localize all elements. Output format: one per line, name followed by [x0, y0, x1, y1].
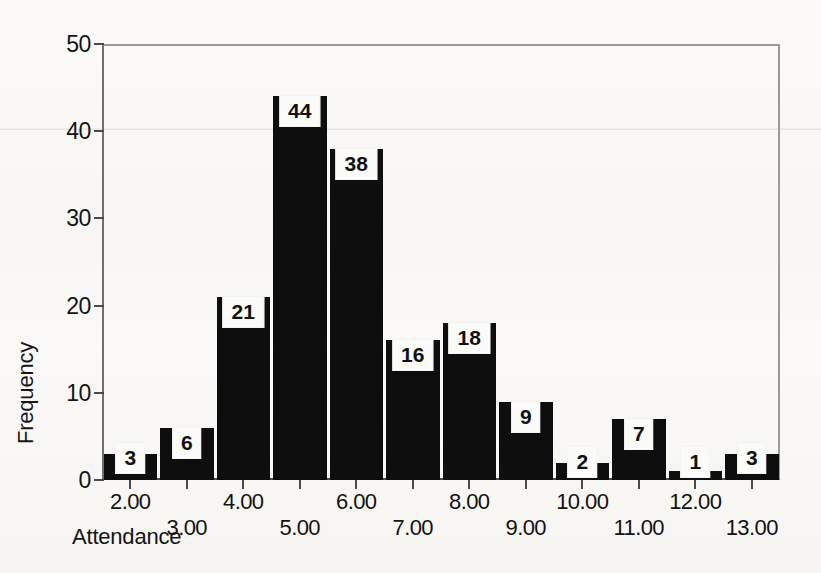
bar-value-label: 9	[511, 401, 541, 433]
x-axis-tick-mark	[299, 480, 301, 489]
x-axis-tick-label: 12.00	[669, 489, 721, 515]
bar-group[interactable]: 44	[273, 96, 327, 480]
bar-group[interactable]: 21	[217, 297, 271, 480]
y-axis-tick-label: 30	[0, 205, 102, 232]
x-axis-tick-mark	[412, 480, 414, 489]
x-axis-tick-label: 5.00	[280, 515, 320, 541]
x-axis-tick-mark	[186, 480, 188, 489]
bar-group[interactable]: 16	[386, 340, 440, 480]
histogram-chart: 01020304050 Frequency 36214438161892713 …	[0, 0, 821, 573]
bar-value-label: 38	[336, 148, 377, 180]
bar-group[interactable]: 3	[725, 454, 779, 480]
bar-rect	[330, 149, 384, 480]
x-axis-tick-mark	[751, 480, 753, 489]
x-axis-tick-mark	[468, 480, 470, 489]
bar-group[interactable]: 6	[160, 428, 214, 480]
x-axis-tick-label: 6.00	[336, 489, 376, 515]
bar-group[interactable]: 9	[499, 402, 553, 480]
x-axis-tick-mark	[242, 480, 244, 489]
bar-value-label: 3	[737, 442, 767, 474]
x-axis-tick-label: 11.00	[614, 515, 664, 541]
x-axis-tick-mark	[581, 480, 583, 489]
x-axis-tick-mark	[694, 480, 696, 489]
x-axis-tick-label: 13.00	[726, 515, 778, 541]
bar-value-label: 16	[392, 339, 433, 371]
x-axis-tick-mark	[638, 480, 640, 489]
bar-group[interactable]: 7	[612, 419, 666, 480]
x-axis-tick-label: 8.00	[449, 489, 489, 515]
bar-value-label: 18	[449, 322, 490, 354]
bar-group[interactable]: 2	[556, 454, 610, 480]
bar-group[interactable]: 1	[669, 454, 723, 480]
bar-rect	[273, 96, 327, 480]
x-axis-tick-label: 7.00	[393, 515, 433, 541]
bar-value-label: 2	[567, 446, 597, 478]
y-axis-tick-label: 50	[0, 31, 102, 58]
bar-group[interactable]: 38	[330, 149, 384, 480]
x-axis-tick-label: 4.00	[223, 489, 263, 515]
bar-group[interactable]: 3	[104, 454, 158, 480]
bar-value-label: 7	[624, 418, 654, 450]
x-axis-tick-mark	[355, 480, 357, 489]
bar-group[interactable]: 18	[443, 323, 497, 480]
y-axis-title: Frequency	[13, 303, 39, 483]
bar-value-label: 6	[172, 427, 202, 459]
bar-value-label: 1	[680, 446, 710, 478]
x-axis-tick-mark	[129, 480, 131, 489]
x-axis-tick-mark	[525, 480, 527, 489]
bar-value-label: 21	[223, 296, 264, 328]
bar-value-label: 3	[115, 442, 145, 474]
x-axis-tick-label: 2.00	[110, 489, 150, 515]
bars-layer: 36214438161892713	[102, 44, 780, 480]
bar-value-label: 44	[279, 95, 320, 127]
y-axis-tick-label: 40	[0, 118, 102, 145]
x-axis-title: Attendance	[72, 524, 181, 550]
x-axis-tick-label: 10.00	[556, 489, 608, 515]
x-axis-tick-label: 9.00	[506, 515, 546, 541]
